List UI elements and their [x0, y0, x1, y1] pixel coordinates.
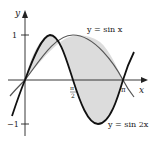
x-axis-arrow-icon: [141, 77, 148, 83]
tick-label-pi: π: [121, 86, 126, 94]
tick-label-1: 1: [12, 31, 17, 40]
legend-sin-2x: y = sin 2x: [107, 120, 149, 129]
legend-sin-x: y = sin x: [86, 25, 123, 34]
y-axis-label: y: [14, 8, 21, 18]
tick-label-neg1: −1: [7, 120, 19, 129]
x-axis-label: x: [139, 85, 144, 95]
tick-label-pi-half-num: π: [70, 84, 74, 91]
tick-label-pi-half-den: 2: [71, 92, 75, 99]
graph: y x 1 −1 π 2 π y = sin x y = sin 2x: [0, 0, 154, 141]
y-axis-arrow-icon: [22, 10, 28, 18]
